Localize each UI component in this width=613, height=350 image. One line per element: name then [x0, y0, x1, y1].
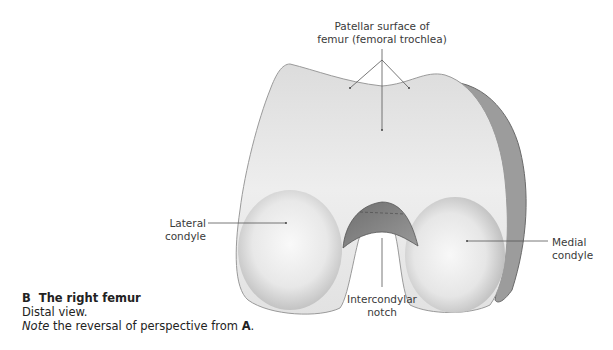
label-patellar-surface-line1: Patellar surface of [312, 20, 452, 33]
caption-subtitle: Distal view. [22, 305, 254, 319]
label-intercondylar-notch-line2: notch [337, 306, 427, 319]
label-lateral-condyle: Lateral condyle [140, 217, 206, 243]
label-lateral-condyle-line1: Lateral [140, 217, 206, 230]
label-patellar-surface-line2: femur (femoral trochlea) [312, 33, 452, 46]
caption-note: Note the reversal of perspective from A. [22, 319, 254, 333]
label-patellar-surface: Patellar surface of femur (femoral troch… [312, 20, 452, 46]
label-intercondylar-notch-line1: Intercondylar [337, 293, 427, 306]
label-lateral-condyle-line2: condyle [140, 230, 206, 243]
label-medial-condyle-line1: Medial [552, 236, 612, 249]
caption-title-line: B The right femur [22, 291, 254, 305]
caption-note-end: . [251, 319, 255, 333]
caption-note-italic: Note [22, 319, 49, 333]
caption-title: The right femur [39, 291, 141, 305]
label-medial-condyle-line2: condyle [552, 249, 612, 262]
label-medial-condyle: Medial condyle [552, 236, 612, 262]
label-intercondylar-notch: Intercondylar notch [337, 293, 427, 319]
caption-note-rest: the reversal of perspective from [49, 319, 241, 333]
caption-note-ref: A [242, 319, 251, 333]
figure-caption: B The right femur Distal view. Note the … [22, 291, 254, 333]
caption-letter: B [22, 291, 31, 305]
